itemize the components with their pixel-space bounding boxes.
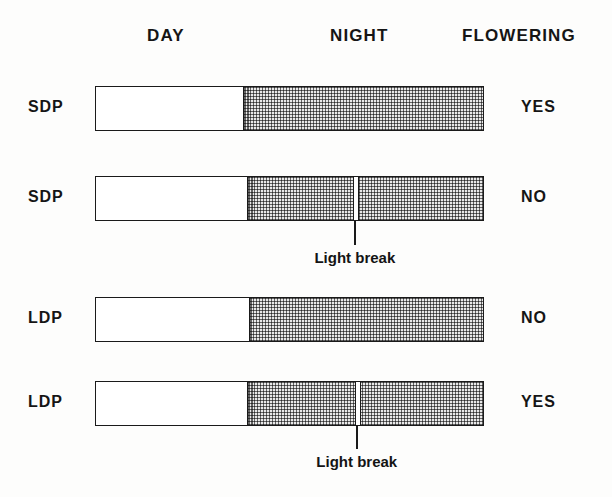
row-flowering-result: YES	[521, 98, 556, 116]
bar-segment-day	[96, 298, 249, 341]
photoperiod-bar	[95, 297, 484, 342]
row-flowering-result: NO	[521, 188, 547, 206]
column-header-flowering: FLOWERING	[462, 26, 576, 46]
row-label-plant-type: LDP	[28, 393, 63, 411]
column-header-night: NIGHT	[330, 26, 388, 46]
photoperiod-bar	[95, 86, 484, 131]
row-flowering-result: NO	[521, 309, 547, 327]
photoperiod-bar	[95, 176, 484, 221]
bar-segment-day	[96, 87, 243, 130]
column-header-day: DAY	[147, 26, 185, 46]
row-label-plant-type: SDP	[28, 98, 64, 116]
light-break-marker	[353, 177, 359, 220]
light-break-leader-line	[354, 221, 356, 245]
bar-segment-night	[247, 382, 483, 425]
light-break-caption: Light break	[314, 249, 395, 266]
light-break-marker	[355, 382, 361, 425]
bar-segment-night	[249, 298, 483, 341]
row-label-plant-type: LDP	[28, 309, 63, 327]
light-break-caption: Light break	[316, 453, 397, 470]
row-label-plant-type: SDP	[28, 188, 64, 206]
bar-segment-night	[243, 87, 483, 130]
photoperiod-bar	[95, 381, 484, 426]
bar-segment-night	[247, 177, 483, 220]
bar-segment-day	[96, 177, 247, 220]
bar-segment-day	[96, 382, 247, 425]
light-break-leader-line	[356, 426, 358, 449]
photoperiodism-figure: DAY NIGHT FLOWERING SDPYESSDPNOLight bre…	[0, 0, 612, 497]
row-flowering-result: YES	[521, 393, 556, 411]
